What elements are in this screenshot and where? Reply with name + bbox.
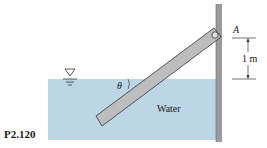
water-label: Water xyxy=(157,103,181,114)
dimension-label: 1 m xyxy=(242,53,257,64)
figure-number: P2.120 xyxy=(4,128,35,140)
angle-label: θ xyxy=(117,80,122,91)
diagram-canvas xyxy=(0,0,267,148)
hinge-label: A xyxy=(233,24,239,35)
hinge-icon xyxy=(212,32,218,38)
wall xyxy=(216,4,222,142)
